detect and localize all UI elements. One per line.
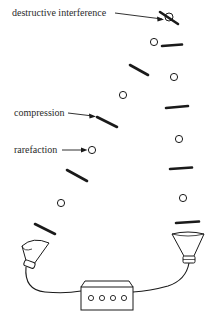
amplifier: [81, 281, 133, 310]
destructive-interference-label: destructive interference: [12, 8, 106, 18]
destructive-interference-arrow: [115, 13, 164, 22]
rarefaction-circle: [150, 38, 157, 45]
rarefaction-circle: [175, 135, 182, 142]
rarefaction-label: rarefaction: [14, 145, 57, 155]
compression-bar: [97, 117, 117, 127]
compression-bar: [176, 222, 199, 224]
diagram-canvas: [0, 0, 214, 320]
compression-bar: [130, 65, 148, 75]
right-speaker: [133, 232, 204, 292]
rarefaction-circle: [170, 73, 177, 80]
rarefaction-circle: [179, 194, 186, 201]
right-source-wavefronts: [150, 38, 199, 223]
compression-bar: [162, 45, 182, 47]
rarefaction-circle: [88, 146, 95, 153]
compression-bar: [35, 224, 55, 234]
rarefaction-circle: [119, 91, 126, 98]
destructive-interference-marker: [160, 12, 178, 24]
rarefaction-arrow: [62, 148, 88, 153]
compression-label: compression: [14, 108, 65, 118]
compression-arrow: [68, 113, 96, 119]
left-speaker: [22, 240, 81, 293]
compression-bar: [166, 106, 188, 108]
compression-bar: [67, 170, 87, 181]
rarefaction-circle: [57, 199, 64, 206]
compression-bar: [170, 168, 192, 170]
interference-diagram: destructive interference compression rar…: [0, 0, 214, 320]
